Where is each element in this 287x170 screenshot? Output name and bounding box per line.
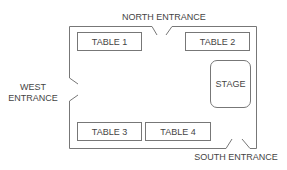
west-entrance-line1: WEST [2,82,64,93]
table-1: TABLE 1 [77,32,142,51]
table-3: TABLE 3 [77,122,142,141]
north-door-left [152,27,157,36]
table-2: TABLE 2 [185,32,250,51]
north-entrance-label: NORTH ENTRANCE [122,12,202,23]
west-entrance-label: WEST ENTRANCE [2,82,64,104]
west-entrance-line2: ENTRANCE [2,93,64,104]
south-entrance-label: SOUTH ENTRANCE [193,152,279,163]
table-4: TABLE 4 [145,122,211,141]
stage: STAGE [210,60,251,108]
